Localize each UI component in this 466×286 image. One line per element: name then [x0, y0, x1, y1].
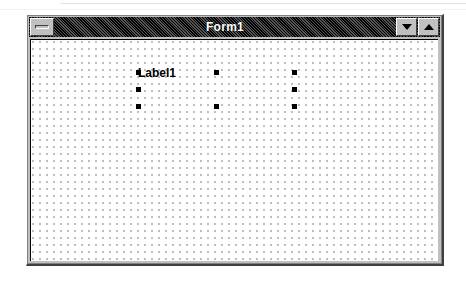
triangle-up-icon	[424, 24, 434, 30]
handle-top-right[interactable]	[292, 70, 297, 75]
system-menu-button[interactable]	[30, 18, 54, 36]
label-caption: Label1	[138, 66, 176, 80]
handle-middle-right[interactable]	[292, 87, 297, 92]
handle-bottom-left[interactable]	[136, 104, 141, 109]
window-title: Form1	[54, 17, 396, 37]
handle-bottom-right[interactable]	[292, 104, 297, 109]
label-control-label1[interactable]: Label1	[136, 70, 137, 71]
title-bar[interactable]: Form1	[29, 17, 440, 37]
window-menu-bar-icon	[35, 25, 49, 29]
form-design-surface[interactable]: Label1	[30, 39, 438, 261]
minimize-button[interactable]	[396, 18, 417, 36]
handle-middle-left[interactable]	[136, 87, 141, 92]
top-divider-line	[60, 3, 466, 4]
handle-top-center[interactable]	[214, 70, 219, 75]
handle-bottom-center[interactable]	[214, 104, 219, 109]
form-designer-window[interactable]: Form1 Label1	[26, 14, 444, 266]
maximize-button[interactable]	[418, 18, 439, 36]
top-divider-line-secondary	[0, 9, 466, 10]
handle-top-left[interactable]	[136, 70, 141, 75]
triangle-down-icon	[402, 24, 412, 30]
